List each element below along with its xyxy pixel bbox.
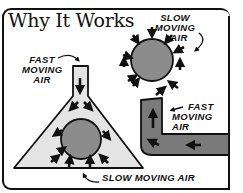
label-fast-moving-air-left: FAST MOVING AIR [22, 55, 62, 85]
label-slow-moving-air-top: SLOW MOVING AIR [140, 13, 210, 43]
label-line: SLOW MOVING [140, 13, 210, 33]
label-line: AIR [140, 33, 210, 43]
pointer-icon [84, 175, 99, 182]
label-fast-moving-air-right: FAST MOVING AIR [172, 102, 232, 132]
label-slow-moving-air-bottom: SLOW MOVING AIR [102, 173, 195, 183]
ball-open-air [131, 39, 173, 81]
label-line: AIR [22, 75, 62, 85]
label-line: MOVING AIR [172, 112, 232, 132]
